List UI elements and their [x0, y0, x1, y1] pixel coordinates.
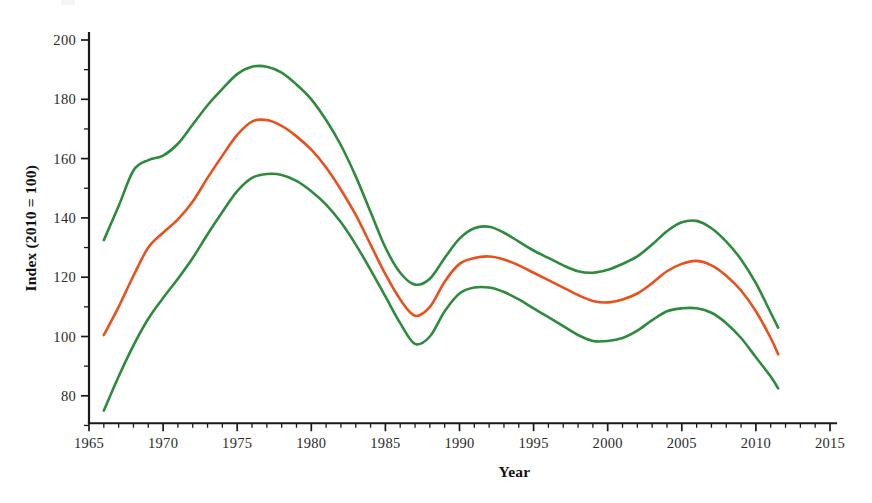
y-tick-label: 180	[53, 91, 76, 107]
page-artifact	[61, 0, 75, 5]
y-axis-title: Index (2010 = 100)	[22, 165, 40, 292]
x-tick-label: 2000	[593, 435, 623, 451]
x-axis-tick-labels: 1965197019751980198519901995200020052010…	[74, 435, 845, 451]
x-tick-label: 2015	[815, 435, 845, 451]
y-axis-tick-labels: 80100120140160180200	[53, 32, 76, 404]
x-axis-major-ticks	[89, 423, 830, 431]
y-tick-label: 80	[61, 388, 76, 404]
series-line-2	[104, 174, 778, 411]
y-tick-label: 120	[53, 269, 76, 285]
x-tick-label: 1970	[148, 435, 178, 451]
y-axis-major-ticks	[81, 40, 89, 396]
data-series-group	[104, 66, 778, 411]
x-tick-label: 1985	[370, 435, 400, 451]
x-tick-label: 1980	[296, 435, 326, 451]
x-tick-label: 2005	[667, 435, 697, 451]
y-tick-label: 200	[53, 32, 76, 48]
x-tick-label: 1975	[222, 435, 252, 451]
chart-container: 1965197019751980198519901995200020052010…	[0, 0, 872, 503]
x-tick-label: 1965	[74, 435, 104, 451]
x-tick-label: 2010	[741, 435, 771, 451]
y-tick-label: 160	[53, 151, 76, 167]
y-tick-label: 100	[53, 329, 76, 345]
x-tick-label: 1995	[518, 435, 548, 451]
y-tick-label: 140	[53, 210, 76, 226]
line-chart: 1965197019751980198519901995200020052010…	[0, 0, 872, 503]
x-axis-title: Year	[499, 463, 531, 480]
x-tick-label: 1990	[444, 435, 474, 451]
